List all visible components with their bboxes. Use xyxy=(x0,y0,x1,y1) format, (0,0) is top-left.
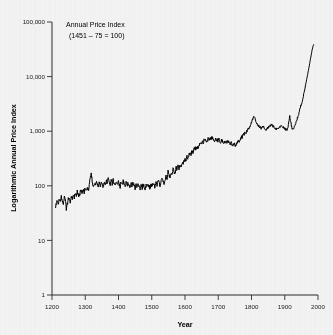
y-tick-label: 1 xyxy=(42,291,46,298)
chart-title: Annual Price Index xyxy=(66,21,125,28)
y-tick-label: 10 xyxy=(38,237,45,244)
x-axis-title: Year xyxy=(177,320,192,329)
x-tick-label: 2000 xyxy=(311,303,325,310)
y-tick-label: 1,000 xyxy=(30,127,46,134)
price-index-chart: 1101001,00010,000100,000 120013001400150… xyxy=(0,0,333,335)
chart-subtitle: (1451 – 75 = 100) xyxy=(69,32,124,40)
y-tick-label: 100,000 xyxy=(23,18,46,25)
x-tick-label: 1900 xyxy=(278,303,292,310)
x-tick-label: 1700 xyxy=(211,303,225,310)
chart-canvas: 1101001,00010,000100,000 120013001400150… xyxy=(0,0,333,335)
x-tick-label: 1600 xyxy=(178,303,192,310)
y-axis-title: Logarithmic Annual Price Index xyxy=(9,104,18,212)
x-tick-label: 1400 xyxy=(112,303,126,310)
y-tick-label: 10,000 xyxy=(26,73,45,80)
x-tick-label: 1300 xyxy=(78,303,92,310)
x-tick-label: 1500 xyxy=(145,303,159,310)
y-tick-label: 100 xyxy=(35,182,46,189)
x-tick-label: 1800 xyxy=(245,303,259,310)
chart-background xyxy=(0,0,333,335)
x-tick-label: 1200 xyxy=(45,303,59,310)
